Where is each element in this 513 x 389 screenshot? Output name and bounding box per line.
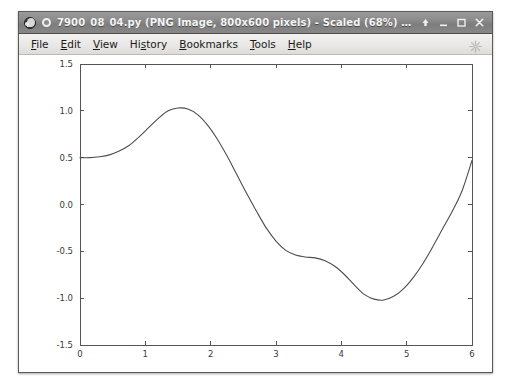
image-viewer-content: 0123456-1.5-1.0-0.50.00.51.01.5 (19, 55, 492, 371)
x-tick-label: 1 (143, 349, 148, 359)
shade-button[interactable] (420, 17, 431, 28)
menu-item-file[interactable]: File (25, 36, 55, 52)
x-tick-label: 4 (339, 349, 344, 359)
y-tick-label: -1.0 (56, 293, 73, 303)
titlebar-icon-group (23, 16, 51, 30)
menu-item-tools-label: ools (255, 38, 276, 50)
window-titlebar[interactable]: 7900_08_04.py (PNG Image, 800x600 pixels… (19, 12, 492, 34)
menu-item-tools[interactable]: Tools (244, 36, 282, 52)
menu-item-help[interactable]: Help (282, 36, 318, 52)
iceweasel-icon (23, 16, 37, 30)
page-favicon-icon (42, 18, 51, 27)
close-button[interactable] (474, 17, 485, 28)
x-tick-label: 3 (273, 349, 278, 359)
browser-window: 7900_08_04.py (PNG Image, 800x600 pixels… (18, 11, 493, 373)
y-tick-label: 0.5 (59, 153, 73, 163)
maximize-button[interactable] (456, 17, 467, 28)
y-tick-label: -1.5 (56, 340, 73, 350)
minimize-button[interactable] (438, 17, 449, 28)
x-tick-label: 0 (77, 349, 82, 359)
menu-item-bookmarks-label: ookmarks (186, 38, 237, 50)
menu-item-view-label: iew (100, 38, 118, 50)
y-tick-label: -0.5 (56, 246, 73, 256)
menu-item-edit-label: dit (67, 38, 81, 50)
menu-item-file-label: ile (36, 38, 48, 50)
plot-axes (81, 65, 473, 346)
x-tick-label: 2 (208, 349, 213, 359)
y-tick-label: 1.5 (59, 59, 73, 69)
x-tick-label: 6 (469, 349, 474, 359)
menu-item-help-label: elp (296, 38, 312, 50)
throbber-icon (469, 38, 482, 51)
menu-item-bookmarks[interactable]: Bookmarks (173, 36, 244, 52)
window-controls (420, 17, 489, 28)
x-tick-label: 5 (404, 349, 409, 359)
matplotlib-figure: 0123456-1.5-1.0-0.50.00.51.01.5 (19, 55, 492, 371)
plot-svg: 0123456-1.5-1.0-0.50.00.51.01.5 (19, 55, 492, 371)
menu-item-history-label: tory (146, 38, 167, 50)
y-tick-label: 0.0 (59, 200, 73, 210)
menu-item-edit[interactable]: Edit (55, 36, 87, 52)
menu-bar: File Edit View History Bookmarks Tools H… (19, 34, 492, 55)
plot-frame (81, 65, 473, 346)
y-tick-label: 1.0 (59, 106, 73, 116)
menu-item-view[interactable]: View (87, 36, 124, 52)
menu-item-history[interactable]: History (124, 36, 173, 52)
window-title: 7900_08_04.py (PNG Image, 800x600 pixels… (51, 17, 420, 28)
